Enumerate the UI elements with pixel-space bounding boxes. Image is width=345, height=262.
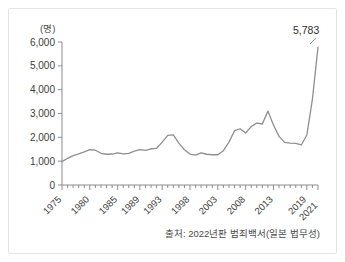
- annotation-leader-line: [310, 38, 316, 44]
- x-tick-label: 2008: [224, 194, 247, 217]
- y-axis-unit-label: (명): [40, 23, 55, 34]
- y-tick-label: 6,000: [30, 37, 55, 48]
- y-tick-label: 4,000: [30, 84, 55, 95]
- x-tick-label: 2003: [197, 194, 220, 217]
- x-axis-ticks: [62, 185, 318, 190]
- figure-root: (명) 01,0002,0003,0004,0005,0006,000 1975…: [0, 0, 345, 262]
- y-tick-label: 5,000: [30, 60, 55, 71]
- x-tick-label: 1993: [141, 194, 164, 217]
- end-value-annotation: 5,783: [293, 24, 319, 36]
- line-chart: (명) 01,0002,0003,0004,0005,0006,000 1975…: [0, 0, 345, 262]
- y-tick-label: 0: [49, 180, 55, 191]
- source-note: 출처: 2022년판 범죄백서(일본 법무성): [165, 228, 320, 239]
- x-tick-label: 1998: [169, 194, 192, 217]
- y-axis-ticks: 01,0002,0003,0004,0005,0006,000: [30, 37, 62, 191]
- y-tick-label: 1,000: [30, 156, 55, 167]
- x-tick-label: 1975: [41, 194, 64, 217]
- data-series-line: [62, 47, 318, 161]
- x-tick-label: 1989: [119, 194, 142, 217]
- x-tick-label: 1980: [69, 194, 92, 217]
- x-tick-label: 1985: [96, 194, 119, 217]
- y-tick-label: 2,000: [30, 132, 55, 143]
- x-tick-label: 2013: [252, 194, 275, 217]
- x-axis-tick-labels: 1975198019851989199319982003200820132019…: [41, 194, 320, 223]
- y-tick-label: 3,000: [30, 108, 55, 119]
